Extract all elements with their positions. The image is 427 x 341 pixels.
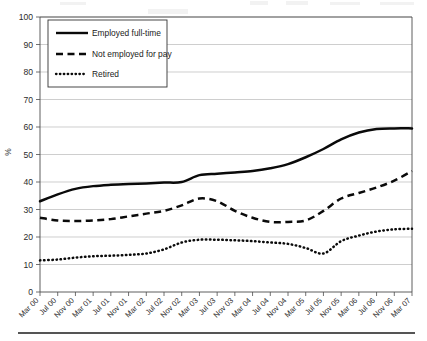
- chart-figure: 100 90 80 70 60 50 40 30 20 10 0 % Mar 0…: [0, 0, 427, 341]
- y-axis-tick-labels: 100 90 80 70 60 50 40 30 20 10 0: [19, 12, 34, 297]
- x-tick-label: Mar 04: [230, 296, 254, 320]
- y-tick-label: 30: [23, 205, 33, 215]
- x-axis-ticks: [40, 292, 412, 296]
- legend: Employed full-time Not employed for pay …: [48, 20, 172, 87]
- series-line-employed-full-time: [40, 128, 412, 201]
- y-tick-label: 40: [23, 177, 33, 187]
- x-tick-label: Mar 02: [123, 296, 146, 319]
- y-tick-label: 50: [23, 150, 33, 160]
- y-tick-label: 10: [23, 260, 33, 270]
- y-tick-label: 80: [23, 67, 33, 77]
- series-line-not-employed-for-pay: [40, 171, 412, 222]
- series-group: [40, 128, 412, 260]
- x-tick-label: Mar 01: [70, 296, 93, 319]
- y-tick-label: 90: [23, 40, 33, 50]
- x-tick-label: Mar 05: [283, 296, 306, 319]
- x-tick-label: Mar 06: [336, 296, 359, 319]
- legend-label-retired: Retired: [92, 69, 119, 79]
- x-axis-tick-labels: Mar 00Jul 00Nov 00Mar 01Jul 01Nov 01Mar …: [17, 296, 412, 320]
- series-line-retired: [40, 229, 412, 261]
- y-axis-ticks: [36, 17, 40, 292]
- x-tick-label: Mar 00: [17, 296, 40, 319]
- y-tick-label: 20: [23, 232, 33, 242]
- y-tick-label: 60: [23, 122, 33, 132]
- x-tick-label: Mar 03: [177, 296, 200, 319]
- line-chart: 100 90 80 70 60 50 40 30 20 10 0 % Mar 0…: [0, 0, 427, 341]
- legend-label-employed-full-time: Employed full-time: [92, 28, 161, 38]
- scan-artifacts: [60, 1, 414, 14]
- y-axis-title: %: [3, 148, 13, 156]
- y-tick-label: 100: [19, 12, 34, 22]
- y-tick-label: 0: [28, 287, 33, 297]
- y-tick-label: 70: [23, 95, 33, 105]
- legend-label-not-employed-for-pay: Not employed for pay: [92, 49, 172, 59]
- x-tick-label: Mar 07: [389, 296, 412, 319]
